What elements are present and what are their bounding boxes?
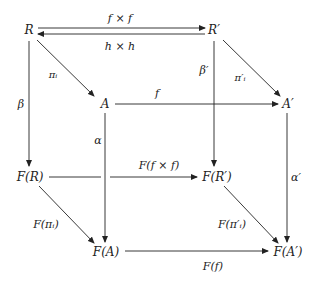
node-F-R-prime: F(R′) bbox=[202, 171, 231, 183]
label-h-times-h: h × h bbox=[105, 41, 135, 52]
label-alpha-prime: α′ bbox=[291, 172, 301, 183]
arrow-pi-i-prime bbox=[223, 40, 280, 96]
label-F-f-times-f: F(f × f) bbox=[139, 160, 180, 171]
node-A-prime: A′ bbox=[282, 98, 293, 110]
node-R-prime: R′ bbox=[208, 24, 220, 36]
label-f: f bbox=[155, 88, 159, 99]
node-A: A bbox=[101, 98, 110, 110]
label-beta-prime: β′ bbox=[200, 65, 209, 76]
diagram-arrows bbox=[0, 0, 314, 283]
label-F-pi-i-prime: F(π′ᵢ) bbox=[218, 219, 246, 230]
node-R: R bbox=[24, 24, 33, 36]
label-pi-i-prime: π′ᵢ bbox=[235, 73, 246, 83]
label-alpha: α bbox=[94, 135, 101, 146]
label-f-times-f: f × f bbox=[108, 13, 132, 24]
arrow-F-pi-i-prime bbox=[224, 186, 278, 243]
arrow-pi-i bbox=[37, 40, 94, 96]
label-pi-i: πᵢ bbox=[49, 70, 58, 80]
node-F-A-prime: F(A′) bbox=[273, 246, 302, 258]
label-beta: β bbox=[18, 99, 24, 110]
label-F-pi-i: F(πᵢ) bbox=[33, 219, 59, 230]
node-F-A: F(A) bbox=[93, 246, 119, 258]
label-F-f: F(f) bbox=[203, 261, 223, 272]
node-F-R: F(R) bbox=[17, 171, 44, 183]
arrow-F-pi-i bbox=[39, 186, 94, 243]
